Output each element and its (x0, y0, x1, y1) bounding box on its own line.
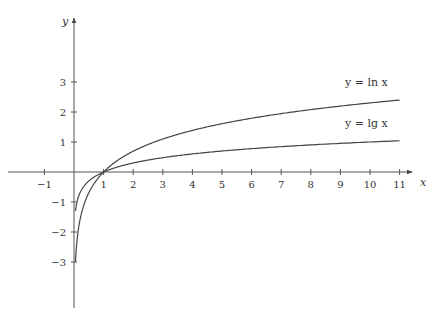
x-axis-label: x (420, 176, 427, 189)
y-axis-label: y (61, 15, 69, 28)
chart-canvas: −11234567891011321−1−2−3 x y y = ln x y … (0, 0, 447, 322)
x-tick-label: −1 (37, 179, 52, 190)
x-tick-label: 8 (308, 179, 314, 190)
x-tick-label: 10 (364, 179, 377, 190)
x-tick-label: 9 (337, 179, 343, 190)
x-tick-label: 4 (189, 179, 195, 190)
y-tick-label: −1 (51, 197, 66, 208)
y-tick-label: −3 (51, 257, 66, 268)
lg-curve (75, 141, 399, 211)
x-tick-label: 3 (160, 179, 166, 190)
x-tick-label: 6 (248, 179, 254, 190)
x-tick-label: 7 (278, 179, 284, 190)
x-tick-label: 1 (100, 179, 106, 190)
x-tick-label: 5 (219, 179, 225, 190)
y-tick-label: 3 (60, 77, 66, 88)
x-tick-label: 2 (130, 179, 136, 190)
lg-curve-label: y = lg x (344, 117, 388, 130)
y-tick-label: 2 (60, 107, 66, 118)
y-tick-label: −2 (51, 227, 66, 238)
axes (8, 18, 412, 308)
ln-curve-label: y = ln x (344, 76, 389, 89)
y-tick-label: 1 (60, 137, 66, 148)
x-tick-label: 11 (393, 179, 406, 190)
